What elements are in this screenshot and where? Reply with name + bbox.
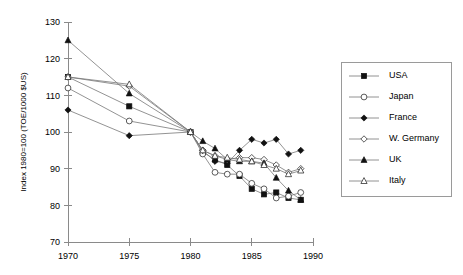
data-point: [249, 180, 255, 186]
legend-label: Japan: [389, 91, 414, 101]
data-point: [286, 193, 292, 199]
data-point: [249, 186, 254, 191]
legend-marker-open-circle: [361, 94, 367, 100]
x-tick-label: 1975: [119, 251, 139, 261]
data-point: [65, 85, 71, 91]
data-point: [237, 171, 243, 177]
data-point: [224, 171, 230, 177]
data-point: [261, 192, 266, 197]
data-point: [298, 147, 304, 153]
data-point: [126, 118, 132, 124]
y-tick-label: 130: [45, 17, 60, 27]
series-w-germany: [65, 74, 304, 176]
data-point: [273, 195, 279, 201]
data-point: [65, 37, 71, 43]
data-point: [200, 138, 206, 144]
y-tick-label: 90: [50, 164, 60, 174]
series-japan: [65, 85, 304, 201]
legend-label: UK: [389, 154, 402, 164]
data-point: [126, 133, 132, 139]
y-tick-label: 80: [50, 201, 60, 211]
legend-label: USA: [389, 70, 408, 80]
data-point: [298, 190, 304, 196]
data-point: [274, 190, 279, 195]
legend-marker-filled-square: [361, 73, 366, 78]
data-point: [261, 140, 267, 146]
data-point: [212, 145, 218, 151]
line-chart: 70809010011012013019701975198019851990In…: [0, 0, 463, 275]
series-polyline: [68, 40, 301, 200]
series-polyline: [68, 77, 301, 200]
legend-label: Italy: [389, 175, 406, 185]
data-point: [127, 104, 132, 109]
y-tick-label: 70: [50, 237, 60, 247]
data-point: [65, 107, 71, 113]
legend-label: W. Germany: [389, 133, 440, 143]
y-tick-label: 120: [45, 54, 60, 64]
data-point: [212, 169, 218, 175]
y-tick-label: 100: [45, 127, 60, 137]
y-axis-title: Index 1980=100 (TOE/1000 $US): [19, 72, 28, 192]
series-uk: [65, 37, 304, 202]
data-point: [261, 186, 267, 192]
series-france: [65, 107, 304, 166]
x-tick-label: 1980: [180, 251, 200, 261]
chart-legend[interactable]: USAJapanFranceW. GermanyUKItaly: [341, 62, 451, 196]
data-point: [126, 90, 132, 96]
chart-figure: 70809010011012013019701975198019851990In…: [0, 0, 463, 275]
chart-series: [65, 37, 304, 202]
legend-label: France: [389, 112, 417, 122]
y-tick-label: 110: [46, 91, 60, 101]
series-polyline: [68, 110, 301, 163]
x-tick-label: 1970: [58, 251, 78, 261]
x-tick-label: 1990: [303, 251, 323, 261]
x-tick-label: 1985: [242, 251, 262, 261]
series-usa: [65, 74, 303, 202]
